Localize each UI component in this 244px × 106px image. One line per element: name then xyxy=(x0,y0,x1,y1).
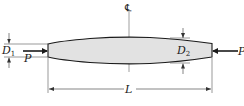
centerline-symbol: ℄ xyxy=(124,2,132,13)
tapered-bar-diagram: ℄ D1 P D2 P L xyxy=(0,0,244,106)
load-left-label: P xyxy=(23,52,32,65)
d1-label: D1 xyxy=(1,44,15,58)
load-right: P xyxy=(213,45,244,58)
load-right-label: P xyxy=(237,45,244,58)
length-label: L xyxy=(124,83,132,96)
load-left: P xyxy=(23,51,47,65)
